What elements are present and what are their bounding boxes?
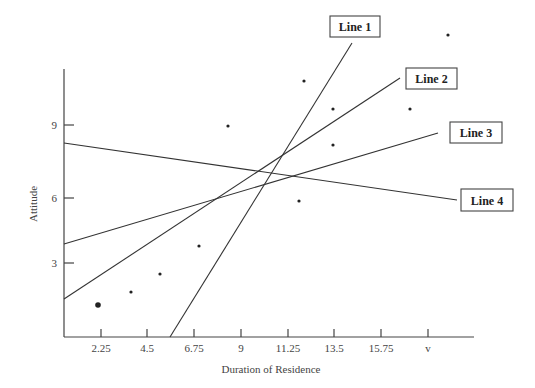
data-point (197, 244, 200, 247)
data-point (408, 107, 411, 110)
data-point (331, 143, 334, 146)
svg-text:Line 3: Line 3 (460, 126, 492, 140)
svg-text:Line 4: Line 4 (471, 194, 503, 208)
line-3 (64, 133, 438, 244)
data-point (129, 290, 132, 293)
x-tick-label: v (425, 342, 431, 354)
svg-text:Line 1: Line 1 (339, 20, 371, 34)
data-point (158, 272, 161, 275)
x-tick-label: 9 (238, 342, 244, 354)
line-1 (170, 43, 352, 337)
x-tick-label: 6.75 (184, 342, 204, 354)
label-line-3: Line 3 (450, 122, 502, 143)
data-point (95, 302, 101, 308)
y-tick-label: 3 (52, 257, 58, 269)
label-line-2: Line 2 (406, 68, 457, 89)
y-tick-labels: 3 6 9 (52, 119, 58, 269)
x-axis-title: Duration of Residence (222, 363, 321, 375)
y-tick-label: 6 (52, 192, 58, 204)
x-tick-label: 4.5 (140, 342, 154, 354)
label-line-1: Line 1 (330, 16, 380, 37)
label-line-4: Line 4 (461, 189, 513, 211)
data-point (331, 107, 334, 110)
data-point (446, 33, 449, 36)
line-2 (64, 78, 400, 299)
data-point (226, 124, 229, 127)
chart: 2.25 4.5 6.75 9 11.25 13.5 15.75 v Durat… (0, 0, 535, 388)
data-point (302, 79, 305, 82)
y-tick-label: 9 (52, 119, 58, 131)
x-tick-labels: 2.25 4.5 6.75 9 11.25 13.5 15.75 v (91, 342, 431, 354)
svg-text:Line 2: Line 2 (415, 72, 447, 86)
x-tick-label: 11.25 (276, 342, 301, 354)
x-ticks (101, 329, 428, 337)
y-axis-title: Attitude (27, 186, 39, 222)
x-tick-label: 15.75 (369, 342, 394, 354)
data-point (297, 199, 300, 202)
x-tick-label: 13.5 (324, 342, 344, 354)
x-tick-label: 2.25 (91, 342, 111, 354)
